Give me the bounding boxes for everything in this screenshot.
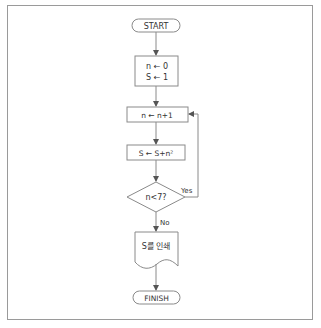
connector-yes-loop [185, 114, 198, 197]
output-label: S를 인쇄 [142, 241, 171, 251]
flowchart: START n ← 0 S ← 1 n ← n+1 S ← S+n² n<7? … [0, 0, 321, 328]
increment-process-box: n ← n+1 [127, 107, 188, 122]
finish-label: FINISH [144, 294, 169, 303]
init-line2: S ← 1 [146, 73, 168, 82]
init-line1: n ← 0 [146, 62, 168, 71]
accumulate-label: S ← S+n² [139, 149, 174, 158]
start-label: START [144, 22, 169, 31]
accumulate-process-box: S ← S+n² [127, 145, 185, 160]
no-label: No [160, 219, 170, 227]
condition-label: n<7? [145, 193, 166, 202]
output-document: S를 인쇄 [135, 232, 178, 268]
yes-label: Yes [180, 187, 193, 195]
decision-diamond: n<7? [127, 182, 185, 212]
increment-label: n ← n+1 [141, 111, 173, 120]
start-terminator: START [132, 19, 180, 32]
init-process-box: n ← 0 S ← 1 [135, 56, 178, 86]
finish-terminator: FINISH [133, 291, 180, 304]
